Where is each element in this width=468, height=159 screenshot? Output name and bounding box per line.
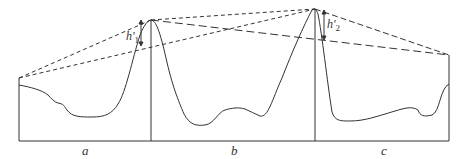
segment-label-b: b (231, 144, 238, 157)
segment-label-c: c (381, 144, 387, 157)
terrain-diagram (0, 0, 468, 159)
h2-symbol: h' (327, 17, 336, 31)
height-label-h1: h'1 (126, 30, 139, 45)
frame-lines (19, 9, 449, 141)
sightline-peak1-to-right (151, 20, 449, 55)
terrain-profile (19, 9, 449, 125)
h1-arrowhead-up (139, 20, 143, 24)
segment-label-a: a (82, 144, 89, 157)
h1-subscript: 1 (135, 35, 140, 45)
sightline-peak1-to-peak2 (151, 9, 315, 20)
h2-arrowhead-up (322, 10, 326, 14)
h2-subscript: 2 (336, 23, 341, 33)
h2-arrowhead-down (322, 36, 326, 40)
sight-lines (19, 9, 449, 78)
h1-arrowhead-down (139, 42, 143, 46)
height-label-h2: h'2 (327, 18, 340, 33)
h1-symbol: h' (126, 29, 135, 43)
